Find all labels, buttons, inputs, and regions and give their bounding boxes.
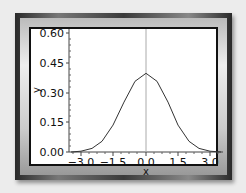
x-tick-label: 3.0	[201, 156, 219, 169]
y-axis: 0.60 0.45 0.30 0.15 0.00 y	[31, 27, 71, 159]
y-tick-label: 0.30	[40, 87, 65, 100]
y-tick-label: 0.45	[40, 57, 65, 70]
y-tick-label: 0.15	[40, 116, 65, 129]
x-axis: −3.0 −1.5 0.0 1.5 3.0 x	[68, 152, 223, 177]
x-tick-label: 1.5	[169, 156, 187, 169]
x-tick-label: −3.0	[68, 156, 95, 169]
y-axis-label: y	[31, 87, 42, 93]
x-tick-label: −1.5	[100, 156, 127, 169]
x-axis-label: x	[143, 166, 149, 177]
normal-distribution-chart: 0.60 0.45 0.30 0.15 0.00 y −3.0 −1.5 0.0…	[0, 0, 246, 193]
y-tick-label: 0.60	[40, 27, 65, 40]
y-tick-label: 0.00	[40, 146, 65, 159]
